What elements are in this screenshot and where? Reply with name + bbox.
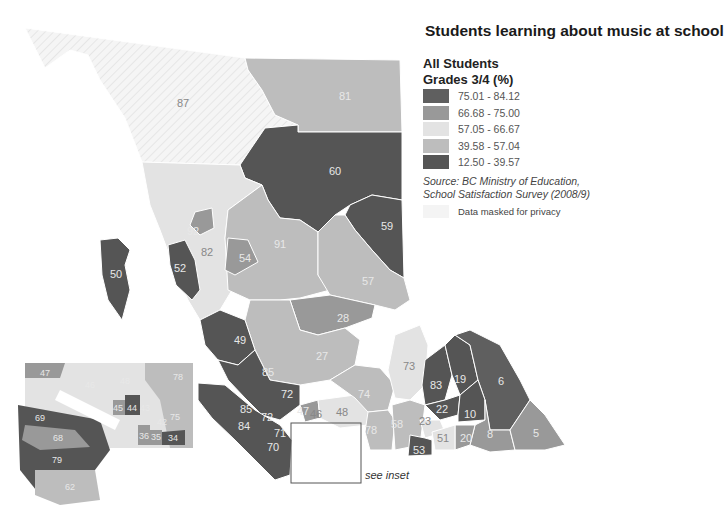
legend-range-3: 57.05 - 66.67: [458, 123, 520, 135]
inset-label-36: 36: [139, 431, 149, 441]
label-46: 46: [310, 408, 322, 420]
label-49: 49: [234, 334, 246, 346]
label-87: 87: [177, 97, 189, 109]
inset-label-68: 68: [53, 433, 63, 443]
legend-class-3: 57.05 - 66.67: [423, 121, 663, 138]
label-10: 10: [464, 408, 476, 420]
see-inset-caption: see inset: [365, 469, 409, 481]
inset-label-69: 69: [35, 413, 45, 423]
label-73: 73: [403, 360, 415, 372]
label-23: 23: [419, 415, 431, 427]
label-60: 60: [329, 165, 341, 177]
label-83: 83: [430, 379, 442, 391]
label-50: 50: [110, 268, 122, 280]
masked-label: Data masked for privacy: [458, 206, 560, 217]
label-72-island: 72: [261, 411, 273, 423]
inset-label-45: 45: [113, 403, 123, 413]
label-57: 57: [362, 275, 374, 287]
inset-label-44: 44: [127, 403, 137, 413]
label-22: 22: [436, 403, 448, 415]
inset-label-62: 62: [65, 482, 75, 492]
legend-range-2: 66.68 - 75.00: [458, 107, 520, 119]
label-6: 6: [498, 375, 504, 387]
label-84: 84: [238, 420, 250, 432]
inset-label-75: 75: [170, 412, 180, 422]
legend: All Students Grades 3/4 (%) 75.01 - 84.1…: [423, 56, 663, 218]
label-54: 54: [239, 252, 251, 264]
label-52: 52: [174, 262, 186, 274]
inset-label-43: 43: [140, 403, 150, 413]
source-note: Source: BC Ministry of Education, School…: [423, 175, 663, 201]
inset-label-47: 47: [40, 368, 50, 378]
label-5: 5: [533, 427, 539, 439]
label-48: 48: [336, 406, 348, 418]
inset-label-42: 42: [157, 417, 167, 427]
label-53: 53: [413, 444, 425, 456]
label-28: 28: [337, 312, 349, 324]
label-74: 74: [358, 388, 370, 400]
inset-label-34: 34: [168, 433, 178, 443]
legend-swatch-4: [423, 139, 449, 153]
source-line-2: School Satisfaction Survey (2008/9): [423, 188, 663, 201]
inset-label-78: 78: [173, 372, 183, 382]
inset-label-48: 48: [120, 376, 130, 386]
legend-swatch-3: [423, 122, 449, 136]
legend-range-1: 75.01 - 84.12: [458, 90, 520, 102]
label-20: 20: [460, 432, 472, 444]
label-85-mainland: 85: [262, 366, 274, 378]
legend-swatch-2: [423, 106, 449, 120]
label-78: 78: [365, 424, 377, 436]
inset-label-35: 35: [151, 432, 161, 442]
label-81: 81: [339, 90, 351, 102]
inset-label-79: 79: [52, 455, 62, 465]
inset-frame: [291, 423, 361, 483]
label-59: 59: [381, 220, 393, 232]
source-line-1: Source: BC Ministry of Education,: [423, 175, 663, 188]
label-47: 47: [297, 405, 309, 417]
label-19: 19: [454, 373, 466, 385]
legend-class-5: 12.50 - 39.57: [423, 154, 663, 171]
masked-swatch: [423, 205, 449, 218]
inset-label-46: 46: [85, 380, 95, 390]
label-82: 82: [201, 246, 213, 258]
inset-map: 47 46 48 78 44 45 43 42 75 36 35 34 69 6…: [18, 363, 193, 505]
legend-class-2: 66.68 - 75.00: [423, 105, 663, 122]
legend-heading-line2: Grades 3/4 (%): [423, 72, 663, 88]
legend-class-4: 39.58 - 57.04: [423, 138, 663, 155]
legend-masked: Data masked for privacy: [423, 205, 663, 218]
label-58: 58: [391, 418, 403, 430]
legend-heading-line1: All Students: [423, 56, 663, 72]
legend-range-5: 12.50 - 39.57: [458, 156, 520, 168]
label-72-mainland: 72: [281, 388, 293, 400]
label-71: 71: [274, 427, 286, 439]
label-8: 8: [487, 428, 493, 440]
label-92: 92: [187, 225, 199, 237]
legend-swatch-5: [423, 155, 449, 169]
legend-class-1: 75.01 - 84.12: [423, 88, 663, 105]
legend-range-4: 39.58 - 57.04: [458, 140, 520, 152]
label-27: 27: [316, 350, 328, 362]
label-51: 51: [437, 432, 449, 444]
label-85-island: 85: [240, 403, 252, 415]
label-70: 70: [267, 441, 279, 453]
map-title: Students learning about music at school: [425, 22, 724, 40]
label-91: 91: [274, 238, 286, 250]
legend-swatch-1: [423, 89, 449, 103]
